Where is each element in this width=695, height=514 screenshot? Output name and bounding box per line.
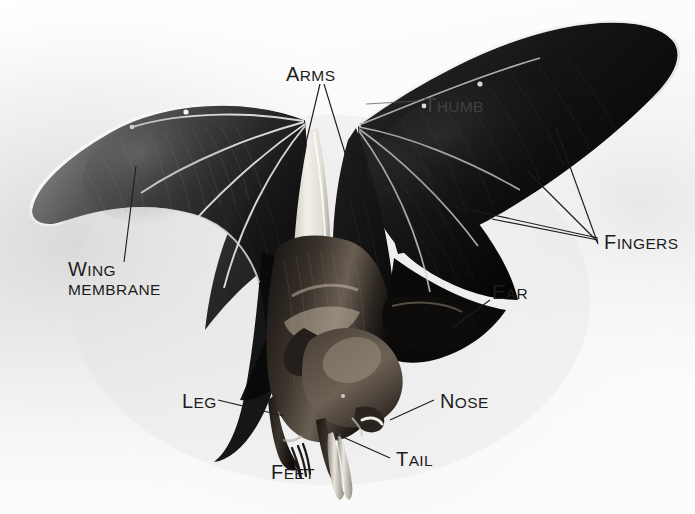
label-thumb-rest: HUMB (437, 98, 484, 115)
label-nose-head: N (440, 390, 455, 412)
label-fingers-rest: INGERS (617, 235, 679, 252)
label-wing-membrane: WING MEMBRANE (68, 257, 161, 300)
label-ear: EAR (492, 282, 528, 303)
label-nose: NOSE (440, 391, 489, 412)
label-fingers-head: F (604, 231, 617, 253)
left-knuckle-1 (183, 109, 188, 114)
label-tail-rest: AIL (409, 452, 433, 469)
label-leg-head: L (182, 390, 194, 412)
label-tail: TAIL (396, 449, 433, 470)
label-ear-head: E (492, 281, 506, 303)
label-arms: ARMS (286, 64, 335, 85)
label-ear-rest: AR (506, 285, 528, 302)
label-wing-membrane-head: W (68, 258, 87, 280)
bat-anatomy-figure: ARMS THUMB FINGERS WING MEMBRANE EAR LEG… (0, 0, 695, 514)
label-thumb-head: T (424, 94, 437, 116)
label-thumb: THUMB (424, 95, 484, 116)
label-fingers: FINGERS (604, 232, 678, 253)
label-feet-rest: EET (284, 465, 315, 482)
label-feet-head: F (271, 461, 284, 483)
label-feet: FEET (271, 462, 315, 483)
eye (341, 394, 345, 398)
label-leg-rest: EG (194, 394, 217, 411)
label-arms-head: A (286, 63, 300, 85)
label-nose-rest: OSE (455, 394, 489, 411)
label-wing-membrane-rest: ING (87, 262, 116, 279)
label-arms-rest: RMS (300, 67, 336, 84)
label-tail-head: T (396, 448, 409, 470)
label-wing-membrane-line2: MEMBRANE (68, 281, 161, 300)
label-leg: LEG (182, 391, 217, 412)
